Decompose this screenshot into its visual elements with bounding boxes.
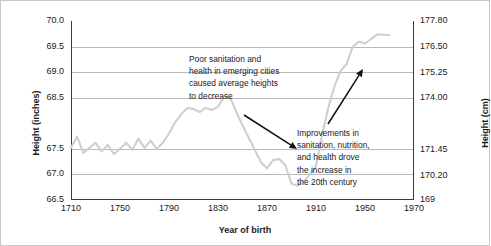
y-axis-left-tick-label: 69.5	[46, 42, 64, 51]
y-axis-right-tick-label: 170.20	[420, 171, 448, 180]
annotation-poor-sanitation: Poor sanitation and health in emerging c…	[189, 53, 321, 102]
x-axis-title: Year of birth	[1, 225, 489, 235]
y-axis-left-tick-label: 70.0	[46, 16, 64, 25]
x-axis-tick-label: 1790	[159, 204, 179, 213]
y-axis-right-tick-label: 175.25	[420, 68, 448, 77]
y-axis-left-tick-label: 69.0	[46, 67, 64, 76]
x-axis-tick-label: 1910	[306, 204, 326, 213]
y-axis-right-tick-label: 176.50	[420, 42, 448, 51]
annotation-improvements: Improvements in sanitation, nutrition, a…	[297, 127, 423, 188]
y-axis-left-title: Height (inches)	[31, 90, 41, 155]
x-axis-tick-label: 1870	[257, 204, 277, 213]
y-axis-right-tick-label: 171.45	[420, 145, 448, 154]
x-axis-tick-label: 1830	[208, 204, 228, 213]
x-axis-tick-label: 1710	[61, 204, 81, 213]
y-axis-left-tick-label: 68.5	[46, 93, 64, 102]
x-axis-tick-label: 1950	[355, 204, 375, 213]
y-axis-right-tick-label: 177.80	[420, 16, 448, 25]
y-axis-left-tick-label: 67.5	[46, 144, 64, 153]
x-axis-tick-label: 1750	[110, 204, 130, 213]
y-axis-right-title: Height (cm)	[479, 98, 489, 148]
x-axis-tick-label: 1970	[404, 204, 424, 213]
y-axis-right-tick-label: 174.00	[420, 93, 448, 102]
y-axis-left-tick-label: 67.0	[46, 169, 64, 178]
